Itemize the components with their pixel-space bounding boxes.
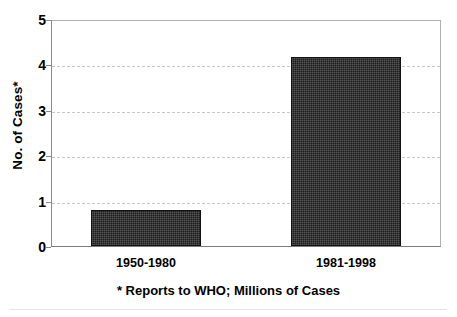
chart-footnote: * Reports to WHO; Millions of Cases bbox=[0, 283, 457, 298]
scan-artifact-line bbox=[10, 309, 447, 310]
x-category-label-1950-1980: 1950-1980 bbox=[91, 256, 201, 270]
y-tick-label-5: 5 bbox=[20, 13, 46, 27]
x-category-label-1981-1998: 1981-1998 bbox=[291, 256, 401, 270]
y-axis-ticks: 5 4 3 2 1 0 bbox=[12, 20, 46, 247]
bar-chart-figure: No. of Cases* 5 4 3 2 1 0 1950-1980 1981… bbox=[0, 0, 457, 317]
y-tick-label-2: 2 bbox=[20, 149, 46, 163]
y-tick-label-4: 4 bbox=[20, 58, 46, 72]
bar-1981-1998[interactable] bbox=[291, 57, 401, 246]
plot-area bbox=[51, 20, 441, 247]
y-tick-label-1: 1 bbox=[20, 195, 46, 209]
y-tick-mark-0 bbox=[46, 247, 51, 248]
y-tick-label-0: 0 bbox=[20, 240, 46, 254]
y-tick-label-3: 3 bbox=[20, 104, 46, 118]
bar-1950-1980[interactable] bbox=[91, 210, 201, 246]
